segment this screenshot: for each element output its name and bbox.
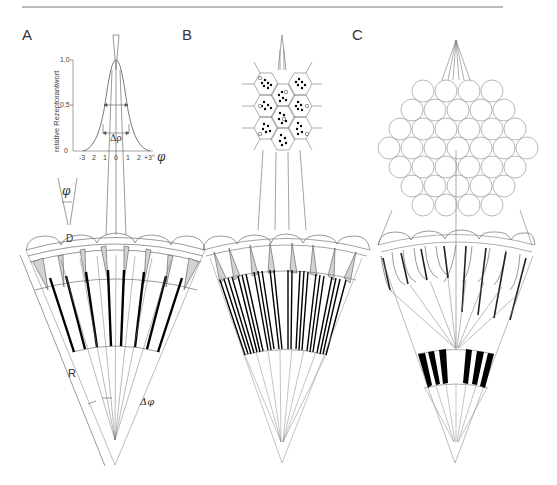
r-label: R [68,367,76,379]
figure-canvas [0,0,557,485]
x-tick-p1: 1 [126,154,130,161]
x-tick-m2: 2 [92,154,96,161]
facet-circles [378,80,538,216]
x-tick-m3: -3 [79,154,85,161]
panel-a-drawing [20,35,205,466]
panel-label-b: B [182,26,192,43]
y-axis-label: relative Rezeptorantwort [52,71,61,152]
x-axis-phi: φ [157,150,165,164]
y-tick-05: 0,5 [60,101,70,108]
panel-label-a: A [22,26,32,43]
y-tick-0: 0 [64,147,68,154]
x-tick-m1: 1 [103,154,107,161]
delta-rho-label: Δρ [110,133,122,143]
phi-label: φ [62,184,70,198]
panel-label-c: C [352,26,363,43]
panel-c-drawing [378,40,538,463]
delta-phi-label: Δφ [140,396,154,407]
x-tick-p3: +3° [144,154,155,161]
x-tick-0: 0 [114,154,118,161]
d-label: D [66,233,73,244]
panel-b-drawing [203,35,370,463]
y-tick-1: 1,0 [60,56,70,63]
x-tick-p2: 2 [137,154,141,161]
